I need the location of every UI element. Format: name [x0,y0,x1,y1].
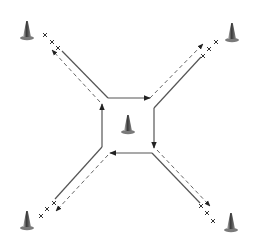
solid-run-top-right [154,57,201,108]
cone-icon-top-left [20,21,34,40]
dashed-run-bottom-left [56,155,108,211]
drill-diagram [0,0,257,244]
cone-icon-bottom-right [224,213,238,232]
solid-run-bottom-right [152,153,200,203]
dashed-run-top-right [150,44,203,98]
x-marks-bottom-right [199,204,215,223]
x-marks-top-left [43,33,60,50]
cones [20,21,239,232]
x-marks-bottom-left [39,201,56,218]
x-marks-top-right [201,40,218,58]
cone-icon-top-right [225,23,239,42]
dashed-run-bottom-right [157,150,210,206]
solid-run-bottom-left [55,147,102,199]
dashed-run-top-left [52,50,100,102]
cone-icon-bottom-left [20,211,34,230]
cone-icon-center [121,115,135,134]
solid-run-top-left [62,51,108,98]
